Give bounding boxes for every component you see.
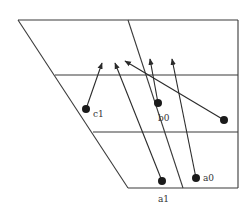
label-a1-bottom: a1 bbox=[158, 194, 169, 204]
point-right bbox=[220, 116, 228, 124]
point-a0 bbox=[192, 174, 200, 182]
label-b0: b0 bbox=[158, 113, 170, 123]
arrow-a1 bbox=[115, 63, 162, 181]
label-a0: a0 bbox=[203, 173, 214, 183]
trapezoid-diagram: c1 b0 a0 a1 bbox=[0, 0, 251, 216]
point-c1 bbox=[82, 105, 90, 113]
frame bbox=[18, 20, 238, 188]
left-slanted-edge bbox=[18, 20, 128, 188]
arrow-c1 bbox=[86, 63, 102, 109]
arrow-a0 bbox=[172, 59, 196, 178]
point-a1 bbox=[158, 177, 166, 185]
arrows bbox=[86, 59, 224, 181]
point-b0 bbox=[154, 99, 162, 107]
arrow-b0 bbox=[150, 59, 158, 103]
label-c1: c1 bbox=[93, 109, 104, 119]
